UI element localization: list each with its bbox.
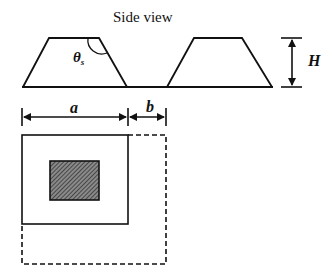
angle-label: θs [73, 49, 85, 67]
height-label: H [307, 52, 321, 69]
side-view-title: Side view [113, 9, 173, 25]
width-b-label: b [146, 98, 154, 115]
hatched-center-rect [50, 161, 99, 200]
right-trapezoid [167, 38, 272, 87]
width-a-label: a [70, 99, 78, 116]
diagram-canvas: Side view θs H a b [0, 0, 333, 277]
